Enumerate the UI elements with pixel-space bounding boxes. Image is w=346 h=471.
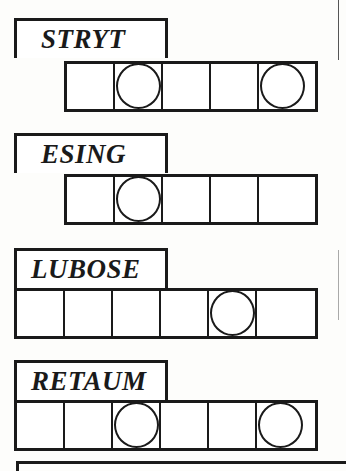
scrambled-word-box: LUBOSE <box>14 248 168 288</box>
letter-tile-2-circled[interactable] <box>115 64 163 109</box>
page-edge-divider <box>338 0 339 60</box>
scrambled-word: LUBOSE <box>31 254 141 285</box>
letter-tile-3[interactable] <box>163 64 211 109</box>
letter-tile-5[interactable] <box>209 403 257 448</box>
letter-tile-4[interactable] <box>161 403 209 448</box>
scrambled-word-box: ESING <box>14 133 168 173</box>
scrambled-word-box: RETAUM <box>14 360 168 400</box>
letter-tile-5[interactable] <box>259 177 307 222</box>
scrambled-word-box: STRYT <box>14 18 168 58</box>
letter-tile-3-circled[interactable] <box>113 403 161 448</box>
letter-tile-1[interactable] <box>67 177 115 222</box>
letter-tile-4[interactable] <box>211 177 259 222</box>
letter-tile-1[interactable] <box>67 64 115 109</box>
page-edge-divider <box>338 250 339 320</box>
letter-tile-6[interactable] <box>257 291 305 336</box>
letter-tile-3[interactable] <box>113 291 161 336</box>
letter-tile-2-circled[interactable] <box>115 177 163 222</box>
letter-tile-4[interactable] <box>211 64 259 109</box>
scrambled-word: ESING <box>41 139 126 170</box>
letter-tile-6-circled[interactable] <box>257 403 305 448</box>
scrambled-word: STRYT <box>41 24 126 55</box>
letter-tile-5-circled[interactable] <box>209 291 257 336</box>
answer-tiles <box>14 400 318 451</box>
letter-tile-3[interactable] <box>163 177 211 222</box>
answer-frame-top <box>16 461 346 471</box>
letter-tile-1[interactable] <box>17 291 65 336</box>
answer-tiles <box>64 174 318 225</box>
answer-tiles <box>64 61 318 112</box>
scrambled-word: RETAUM <box>31 366 147 397</box>
letter-tile-5-circled[interactable] <box>259 64 307 109</box>
letter-tile-2[interactable] <box>65 403 113 448</box>
letter-tile-1[interactable] <box>17 403 65 448</box>
letter-tile-2[interactable] <box>65 291 113 336</box>
answer-tiles <box>14 288 318 339</box>
letter-tile-4[interactable] <box>161 291 209 336</box>
